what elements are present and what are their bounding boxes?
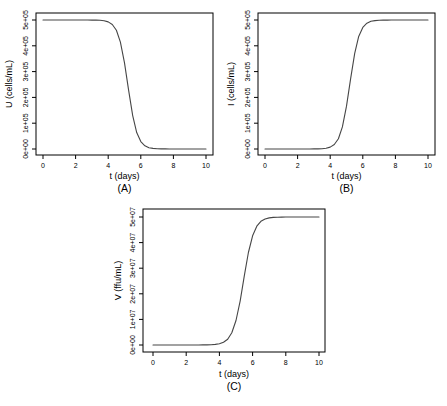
y-axis-label: I (cells/mL) (226, 62, 236, 106)
plot-panel-c: 02468100e+001e+072e+073e+074e+075e+07t (… (108, 196, 340, 406)
x-tick-label: 10 (315, 359, 323, 366)
x-tick-label: 0 (41, 162, 45, 169)
plot-box (143, 209, 325, 352)
y-tick-label: 2e+05 (244, 87, 251, 107)
x-tick-label: 10 (202, 162, 210, 169)
y-tick-label: 3e+05 (244, 62, 251, 82)
y-tick-label: 4e+05 (244, 36, 251, 56)
y-tick-label: 1e+05 (22, 113, 29, 133)
x-tick-label: 8 (171, 162, 175, 169)
panel-caption: (C) (227, 380, 242, 392)
x-tick-label: 10 (424, 162, 432, 169)
y-tick-label: 2e+07 (129, 284, 136, 304)
data-curve-U (43, 20, 206, 149)
x-tick-label: 2 (184, 359, 188, 366)
x-tick-label: 0 (263, 162, 267, 169)
y-tick-label: 4e+07 (129, 233, 136, 253)
y-tick-label: 0e+00 (244, 139, 251, 159)
x-tick-label: 6 (139, 162, 143, 169)
x-axis-label: t (days) (219, 369, 249, 379)
x-tick-label: 8 (284, 359, 288, 366)
y-tick-label: 4e+05 (22, 36, 29, 56)
y-axis-label: U (cells/mL) (4, 60, 14, 108)
y-tick-label: 0e+00 (22, 139, 29, 159)
y-tick-label: 3e+05 (22, 62, 29, 82)
data-curve-V (153, 217, 319, 345)
y-tick-label: 2e+05 (22, 87, 29, 107)
x-tick-label: 4 (217, 359, 221, 366)
x-tick-label: 6 (251, 359, 255, 366)
y-tick-label: 0e+00 (129, 335, 136, 355)
y-tick-label: 5e+07 (129, 207, 136, 227)
panel-caption: (A) (118, 182, 132, 194)
plot-panel-a: 02468100e+001e+052e+053e+054e+055e+05t (… (0, 0, 223, 200)
y-tick-label: 3e+07 (129, 258, 136, 278)
x-tick-label: 4 (328, 162, 332, 169)
x-axis-label: t (days) (109, 171, 139, 181)
x-tick-label: 2 (74, 162, 78, 169)
y-axis-label: V (ffu/mL) (113, 261, 123, 300)
y-tick-label: 1e+05 (244, 113, 251, 133)
plot-box (258, 13, 435, 155)
panel-caption: (B) (340, 182, 354, 194)
x-tick-label: 4 (106, 162, 110, 169)
plot-panel-b: 02468100e+001e+052e+053e+054e+055e+05t (… (223, 0, 447, 200)
x-axis-label: t (days) (331, 171, 361, 181)
figure-canvas: 02468100e+001e+052e+053e+054e+055e+05t (… (0, 0, 447, 406)
x-tick-label: 8 (393, 162, 397, 169)
y-tick-label: 5e+05 (244, 10, 251, 30)
data-curve-I (265, 20, 428, 149)
x-tick-label: 2 (296, 162, 300, 169)
plot-box (36, 13, 213, 155)
y-tick-label: 5e+05 (22, 10, 29, 30)
y-tick-label: 1e+07 (129, 309, 136, 329)
x-tick-label: 6 (361, 162, 365, 169)
x-tick-label: 0 (151, 359, 155, 366)
